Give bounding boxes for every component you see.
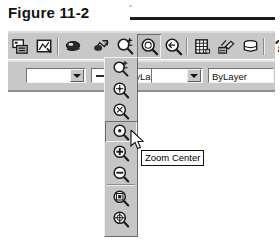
lineweight-combo-dropdown[interactable] bbox=[187, 69, 201, 82]
zoom-previous-icon bbox=[164, 37, 183, 56]
figure-caption: Figure 11-2 bbox=[8, 4, 89, 21]
color-combo-dropdown[interactable] bbox=[70, 69, 84, 82]
toolbar-button-help-question[interactable]: ? bbox=[267, 34, 279, 58]
flyout-item-zoom-out[interactable] bbox=[105, 163, 137, 184]
flyout-item-zoom-dynamic[interactable] bbox=[105, 79, 137, 100]
toolbar-button-zoom-flyout[interactable] bbox=[137, 34, 161, 58]
flyout-item-zoom-scale[interactable] bbox=[105, 100, 137, 121]
zoom-center-tooltip: Zoom Center bbox=[141, 150, 204, 166]
figure-root: Figure 11-2 ? ByLayer ByLayer Zoom Cente… bbox=[0, 0, 279, 250]
toolbar-button-zoom-previous[interactable] bbox=[161, 34, 185, 58]
chevron-down-icon bbox=[190, 74, 198, 78]
match-properties-icon bbox=[217, 37, 236, 56]
flyout-item-zoom-extents[interactable] bbox=[105, 208, 137, 229]
zoom-center-icon bbox=[112, 123, 130, 141]
toolbar-button-zoom-realtime[interactable] bbox=[89, 34, 113, 58]
plotstyle-value: ByLayer bbox=[212, 71, 247, 82]
properties-icon bbox=[193, 37, 212, 56]
zoom-out-icon bbox=[112, 165, 130, 183]
svg-text:?: ? bbox=[274, 37, 279, 55]
flyout-item-zoom-window[interactable] bbox=[105, 58, 137, 79]
flyout-item-zoom-all[interactable] bbox=[105, 187, 137, 208]
zoom-window-icon bbox=[112, 60, 130, 78]
toolbar-button-zoom-window[interactable] bbox=[113, 34, 137, 58]
zoom-dynamic-icon bbox=[112, 81, 130, 99]
arrow-cursor-icon bbox=[130, 130, 146, 152]
zoom-window-icon bbox=[116, 37, 135, 56]
properties-bar-shadow bbox=[8, 90, 275, 92]
toolbar-button-properties[interactable] bbox=[190, 34, 214, 58]
zoom-all-icon bbox=[112, 189, 130, 207]
mouse-pointer-cursor bbox=[130, 130, 146, 152]
toolbar-button-plot[interactable] bbox=[32, 34, 56, 58]
zoom-scale-icon bbox=[112, 102, 130, 120]
toolbar-button-match-properties[interactable] bbox=[214, 34, 238, 58]
chevron-down-icon bbox=[73, 74, 81, 78]
zoom-realtime-icon bbox=[92, 37, 111, 56]
caption-rule bbox=[130, 17, 275, 20]
caption-speck bbox=[129, 5, 132, 7]
zoom-extents-icon bbox=[112, 210, 130, 228]
plot-icon bbox=[35, 37, 54, 56]
standard-toolbar: ? bbox=[8, 33, 275, 59]
zoom-flyout-icon bbox=[140, 37, 159, 56]
help-question-icon: ? bbox=[270, 37, 280, 56]
database-icon bbox=[241, 37, 260, 56]
toolbar-button-pan-realtime[interactable] bbox=[61, 34, 85, 58]
zoom-in-icon bbox=[112, 144, 130, 162]
toolbar-button-database[interactable] bbox=[238, 34, 262, 58]
pan-realtime-icon bbox=[64, 37, 83, 56]
print-preview-icon bbox=[11, 37, 30, 56]
toolbar-button-print-preview[interactable] bbox=[8, 34, 32, 58]
